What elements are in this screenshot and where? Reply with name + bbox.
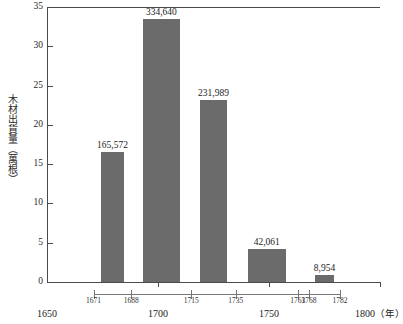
y-axis-title: 木材出貨量（萬根）: [2, 94, 17, 184]
x-axis-decade-tick: [158, 282, 159, 287]
bar: [101, 152, 124, 282]
bars-layer: 165,572334,640231,98942,0618,954: [47, 7, 380, 282]
period-ruler-label: 1688: [117, 297, 145, 305]
bar: [143, 19, 180, 282]
period-ruler-label: 1782: [326, 297, 354, 305]
y-axis-tick: [47, 282, 53, 283]
bar-value-label: 8,954: [295, 263, 355, 273]
period-ruler-label: 1671: [80, 297, 108, 305]
period-ruler-label: 1768: [295, 297, 323, 305]
y-axis-tick-label: 35: [17, 2, 43, 12]
bar: [200, 100, 228, 282]
bar: [315, 275, 334, 282]
y-axis-tick-label: 25: [17, 81, 43, 91]
y-axis-tick-label: 10: [17, 198, 43, 208]
y-axis-tick-label: 5: [17, 238, 43, 248]
period-ruler-label: 1715: [177, 297, 205, 305]
x-axis-decade-label-text: 1800: [355, 308, 375, 319]
x-axis-decade-label: 1650: [22, 308, 72, 319]
bar: [248, 249, 287, 282]
x-axis-line: [47, 282, 380, 283]
x-axis-decade-tick: [269, 282, 270, 287]
y-axis-tick-label: 15: [17, 159, 43, 169]
bar-value-label: 42,061: [237, 237, 297, 247]
bar-value-label: 334,640: [131, 7, 191, 17]
period-ruler-label: 1735: [222, 297, 250, 305]
x-axis-decade-label: 1800（年）: [355, 308, 403, 320]
x-axis-unit-label: （年）: [375, 309, 403, 319]
x-axis-decade-label: 1700: [133, 308, 183, 319]
bar-value-label: 165,572: [82, 140, 142, 150]
y-axis-tick-label: 0: [17, 277, 43, 287]
x-axis-decade-tick: [380, 282, 381, 287]
bar-value-label: 231,989: [184, 88, 244, 98]
y-axis-tick-label: 20: [17, 120, 43, 130]
x-axis-decade-label: 1750: [244, 308, 294, 319]
y-axis-tick-label: 30: [17, 41, 43, 51]
